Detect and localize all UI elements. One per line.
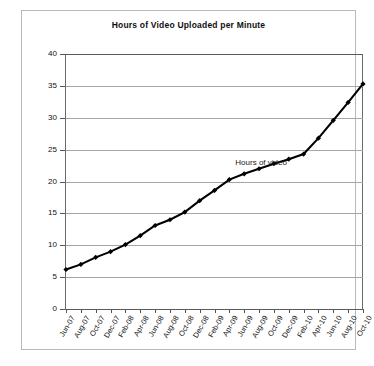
x-axis-tick: [259, 309, 260, 313]
y-axis-tick: [60, 309, 65, 310]
y-axis-tick: [60, 150, 65, 151]
x-axis-tick: [348, 309, 349, 313]
x-axis-tick: [274, 309, 275, 313]
series-polyline: [66, 84, 363, 270]
x-axis-tick: [229, 309, 230, 313]
y-axis-tick-label: 15: [27, 208, 57, 217]
x-axis-tick: [140, 309, 141, 313]
x-axis-tick: [81, 309, 82, 313]
y-axis-tick: [60, 277, 65, 278]
x-axis-tick: [244, 309, 245, 313]
x-axis-tick: [96, 309, 97, 313]
y-axis-tick-label: 5: [27, 272, 57, 281]
y-axis-tick-label: 0: [27, 304, 57, 313]
x-axis-tick: [66, 309, 67, 313]
y-axis-tick-label: 20: [27, 177, 57, 186]
y-axis-tick: [60, 54, 65, 55]
x-axis-tick: [185, 309, 186, 313]
x-axis-tick: [155, 309, 156, 313]
x-axis-tick: [200, 309, 201, 313]
y-axis-tick-label: 25: [27, 145, 57, 154]
series-line-chart: [66, 54, 363, 309]
chart-frame: Hours of Video Uploaded per Minute Hours…: [21, 10, 356, 350]
series-markers: [63, 81, 365, 272]
y-axis-tick-label: 10: [27, 240, 57, 249]
y-axis-tick: [60, 86, 65, 87]
y-axis-tick: [60, 118, 65, 119]
x-axis-tick: [215, 309, 216, 313]
data-point-marker: [256, 166, 261, 171]
y-axis-tick: [60, 245, 65, 246]
x-axis-tick: [363, 309, 364, 313]
plot-area: [66, 54, 363, 309]
chart-title: Hours of Video Uploaded per Minute: [22, 20, 355, 30]
x-axis-tick: [170, 309, 171, 313]
y-axis-tick: [60, 182, 65, 183]
x-axis-tick: [304, 309, 305, 313]
y-axis-tick-label: 40: [27, 49, 57, 58]
x-axis-tick: [333, 309, 334, 313]
y-axis-tick-label: 30: [27, 113, 57, 122]
y-axis-tick: [60, 213, 65, 214]
x-axis-tick: [318, 309, 319, 313]
x-axis-tick: [125, 309, 126, 313]
x-axis-tick: [289, 309, 290, 313]
x-axis-tick: [111, 309, 112, 313]
series-annotation-label: Hours of video: [235, 158, 287, 167]
y-axis-tick-label: 35: [27, 81, 57, 90]
